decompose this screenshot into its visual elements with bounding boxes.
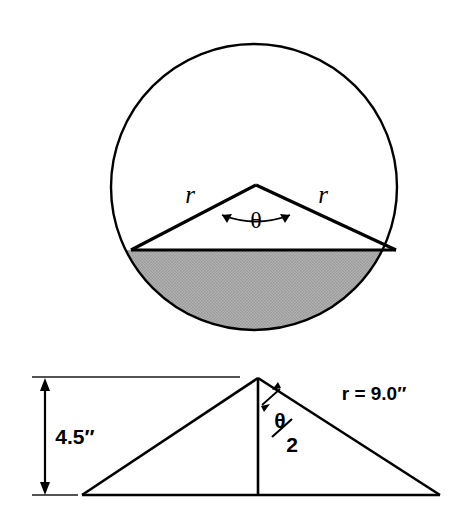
radius-label-right: r bbox=[318, 181, 328, 208]
radius-value-label: r = 9.0″ bbox=[342, 383, 407, 404]
dimension-arrow-up-icon bbox=[40, 378, 50, 391]
theta-label: θ bbox=[250, 207, 262, 233]
figure-root: r r θ bbox=[0, 0, 467, 524]
half-angle-arc bbox=[262, 389, 280, 405]
dimension-arrow-down-icon bbox=[40, 482, 50, 495]
half-angle-label: θ 2 bbox=[272, 409, 298, 456]
circle-segment-diagram: r r θ bbox=[111, 44, 397, 330]
half-triangle-diagram: 4.5″ r = 9.0″ θ 2 bbox=[32, 377, 440, 495]
radius-label-left: r bbox=[185, 181, 195, 208]
geometry-figure: r r θ bbox=[0, 0, 467, 524]
triangle-left-side bbox=[82, 378, 258, 495]
half-angle-denominator: 2 bbox=[286, 433, 298, 456]
height-label: 4.5″ bbox=[55, 425, 94, 448]
